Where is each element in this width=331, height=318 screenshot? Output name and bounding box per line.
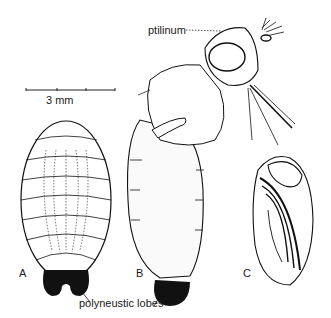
scale-bar-label: 3 mm <box>46 95 74 106</box>
figure-canvas <box>0 0 331 318</box>
panel-label-b: B <box>136 268 143 279</box>
specimen-a <box>21 121 111 302</box>
ptilinum-label: ptilinum <box>148 25 186 36</box>
panel-label-c: C <box>243 268 251 279</box>
scale-bar <box>26 88 115 91</box>
panel-label-a: A <box>19 268 26 279</box>
polyneustic-lobes-label: polyneustic lobes <box>79 298 163 309</box>
specimen-c <box>253 157 313 286</box>
